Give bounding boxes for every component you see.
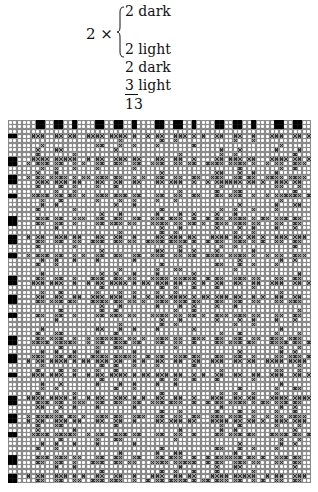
curly-brace-icon bbox=[117, 6, 125, 58]
sequence-line-dark-2: 2 dark bbox=[125, 59, 171, 75]
colour-sequence-formula: 2 × 2 dark 2 light 2 dark 3 light 13 bbox=[0, 0, 318, 112]
repeat-multiplier: 2 × bbox=[86, 25, 113, 43]
sequence-line-light-2: 3 light bbox=[125, 77, 171, 93]
sequence-line-light-1: 2 light bbox=[125, 41, 171, 57]
sum-rule bbox=[125, 94, 138, 95]
draft-cell bbox=[307, 478, 312, 483]
sequence-total: 13 bbox=[125, 96, 143, 112]
sequence-line-dark-1: 2 dark bbox=[125, 3, 171, 19]
weave-draft-grid bbox=[8, 120, 311, 483]
